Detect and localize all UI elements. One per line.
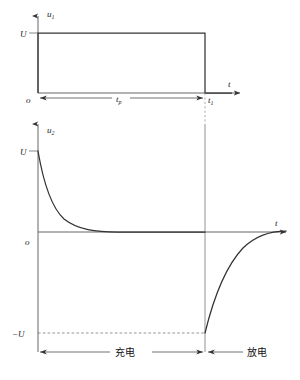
figure-canvas: u1 U t o tp t1 xyxy=(0,0,300,380)
waveform-figure: u1 U t o tp t1 xyxy=(0,0,300,380)
charge-phase-label: 充电 xyxy=(115,346,135,358)
bottom-trough-label: −U xyxy=(12,329,25,339)
charging-curve xyxy=(38,151,205,232)
bottom-y-axis-label: u2 xyxy=(47,125,55,136)
top-origin-label: o xyxy=(26,95,31,105)
bottom-x-axis-label: t xyxy=(275,218,278,228)
top-x-axis-label: t xyxy=(228,79,231,89)
end-time-label: t1 xyxy=(208,95,214,106)
top-y-axis-label: u1 xyxy=(47,9,55,20)
bottom-peak-label: U xyxy=(20,147,27,157)
discharge-phase-label: 放电 xyxy=(247,346,267,358)
discharging-curve xyxy=(205,231,286,333)
top-amplitude-label: U xyxy=(20,29,27,39)
input-pulse-trace xyxy=(38,33,232,93)
bottom-origin-label: o xyxy=(25,237,30,247)
plot-top-input-pulse: u1 U t o tp t1 xyxy=(20,9,240,106)
phase-annotations: 充电 放电 xyxy=(40,346,267,358)
pulse-duration-label: tp xyxy=(116,94,122,105)
plot-bottom-capacitor-response: u2 U t o −U xyxy=(12,124,286,352)
